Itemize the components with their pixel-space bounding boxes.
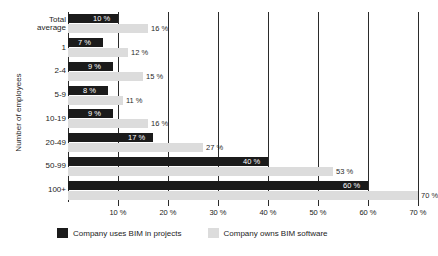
bar-value-label: 11 %: [126, 96, 143, 105]
legend-label: Company uses BIM in projects: [73, 229, 182, 238]
tick-mark-50: [318, 202, 319, 206]
legend-item[interactable]: Company uses BIM in projects: [57, 228, 182, 238]
bar-owns-bim: [68, 191, 418, 200]
bar-value-label: 8 %: [83, 86, 96, 95]
plot-area: 10 %20 %30 %40 %50 %60 %70 % 10 %16 %7 %…: [68, 12, 418, 202]
legend-label: Company owns BIM software: [224, 229, 328, 238]
bar-value-label: 9 %: [88, 62, 101, 71]
category-axis-labels: Totalaverage12-45-910-1920-4950-99100+: [14, 12, 66, 202]
bar-value-label: 16 %: [151, 24, 168, 33]
tick-mark-10: [118, 202, 119, 206]
x-tick-label: 70 %: [409, 208, 426, 217]
x-tick-label: 20 %: [159, 208, 176, 217]
category-label: 2-4: [14, 67, 66, 76]
bar-value-label: 17 %: [128, 133, 145, 142]
bar-value-label: 40 %: [243, 157, 260, 166]
bar-value-label: 12 %: [131, 48, 148, 57]
category-label: 20-49: [14, 138, 66, 147]
bar-value-label: 7 %: [78, 38, 91, 47]
category-label: 5-9: [14, 91, 66, 100]
bar-owns-bim: [68, 72, 143, 81]
gridline-60: [368, 12, 369, 202]
gridline-70: [418, 12, 419, 202]
bar-value-label: 15 %: [146, 72, 163, 81]
bar-value-label: 10 %: [93, 14, 110, 23]
category-label: 100+: [14, 186, 66, 195]
tick-mark-60: [368, 202, 369, 206]
x-tick-label: 50 %: [309, 208, 326, 217]
bar-owns-bim: [68, 167, 333, 176]
bar-owns-bim: [68, 24, 148, 33]
x-tick-label: 60 %: [359, 208, 376, 217]
tick-mark-30: [218, 202, 219, 206]
tick-mark-20: [168, 202, 169, 206]
x-tick-label: 10 %: [109, 208, 126, 217]
legend-swatch-icon: [57, 228, 68, 238]
category-label: 1: [14, 43, 66, 52]
category-label: 50-99: [14, 162, 66, 171]
bar-value-label: 70 %: [421, 191, 438, 200]
bar-owns-bim: [68, 119, 148, 128]
bar-owns-bim: [68, 96, 123, 105]
bar-value-label: 16 %: [151, 119, 168, 128]
legend-swatch-icon: [208, 228, 219, 238]
bar-owns-bim: [68, 48, 128, 57]
bar-value-label: 53 %: [336, 167, 353, 176]
tick-mark-70: [418, 202, 419, 206]
bar-value-label: 60 %: [343, 181, 360, 190]
x-tick-label: 40 %: [259, 208, 276, 217]
legend-item[interactable]: Company owns BIM software: [208, 228, 328, 238]
bar-uses-bim: [68, 181, 368, 190]
chart-legend: Company uses BIM in projectsCompany owns…: [57, 228, 328, 238]
tick-mark-40: [268, 202, 269, 206]
category-label: 10-19: [14, 115, 66, 124]
bar-owns-bim: [68, 143, 203, 152]
category-label: Totalaverage: [14, 15, 66, 32]
bar-uses-bim: [68, 157, 268, 166]
bar-value-label: 9 %: [88, 109, 101, 118]
x-tick-label: 30 %: [209, 208, 226, 217]
bar-chart: Number of employees Totalaverage12-45-91…: [0, 0, 438, 256]
bar-value-label: 27 %: [206, 143, 223, 152]
